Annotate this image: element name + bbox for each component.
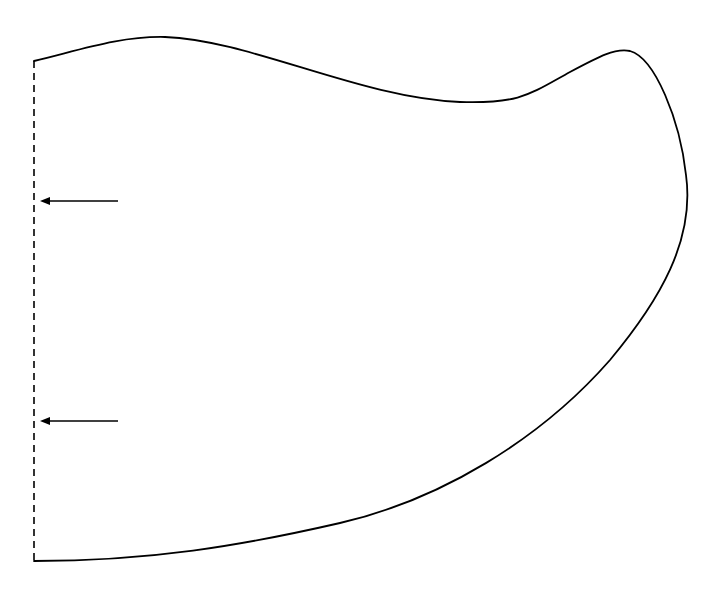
shape-outline-curve	[34, 37, 687, 561]
arrowhead-left-icon	[40, 197, 50, 205]
diagram-canvas	[0, 0, 710, 592]
arrow-group	[40, 197, 118, 425]
arrowhead-left-icon	[40, 417, 50, 425]
